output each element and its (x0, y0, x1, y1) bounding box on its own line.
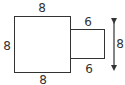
rectangle-bottom-label: 6 (85, 62, 93, 76)
large-square (15, 17, 71, 73)
rectangle-top-label: 6 (84, 15, 92, 29)
height-arrow-label: 8 (116, 37, 124, 51)
composite-shape-diagram: 8 8 8 6 6 8 (0, 0, 125, 85)
square-bottom-label: 8 (39, 73, 47, 85)
small-rectangle (71, 30, 105, 59)
square-top-label: 8 (38, 1, 46, 15)
square-left-label: 8 (3, 39, 11, 53)
